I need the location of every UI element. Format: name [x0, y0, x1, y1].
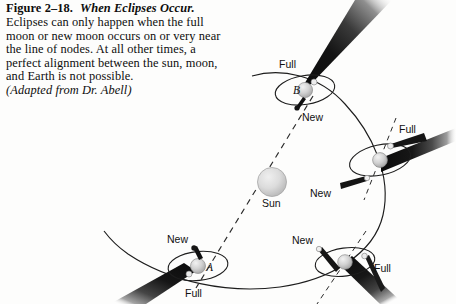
- full-moon-right: [388, 143, 394, 149]
- new-moon-bottom-right: [316, 246, 321, 251]
- earth-br-new-label: New: [292, 234, 313, 246]
- earth-a-full-label: Full: [185, 287, 202, 299]
- new-moon-shadow-right: [340, 176, 367, 189]
- line-of-nodes: [0, 0, 313, 288]
- new-moon-a: [191, 245, 196, 250]
- new-moon-b: [294, 105, 299, 110]
- sun: [258, 168, 287, 197]
- earth-sphere-right: [373, 153, 388, 168]
- full-moon-a: [186, 271, 192, 277]
- eclipse-diagram: Sun B Full New: [0, 0, 456, 304]
- earth-b-marker: B: [293, 84, 300, 96]
- new-moon-right: [364, 175, 369, 180]
- full-moon-b: [311, 79, 317, 85]
- earth-a-marker: A: [205, 261, 214, 273]
- earth-a-new-label: New: [167, 233, 188, 245]
- earth-position-right: [340, 118, 456, 200]
- full-moon-bottom-right: [362, 253, 368, 259]
- earth-right-new-label: New: [310, 187, 331, 199]
- earth-position-b: B: [273, 0, 392, 111]
- figure-container: Figure 2–18.When Eclipses Occur. Eclipse…: [0, 0, 456, 304]
- sun-label: Sun: [262, 197, 281, 209]
- earth-b-new-label: New: [302, 111, 323, 123]
- earth-sphere-bottom-right: [338, 255, 353, 270]
- earth-sphere-a: [191, 259, 206, 274]
- earth-br-full-label: Full: [374, 262, 391, 274]
- earth-b-full-label: Full: [279, 58, 296, 70]
- earth-right-full-label: Full: [399, 123, 416, 135]
